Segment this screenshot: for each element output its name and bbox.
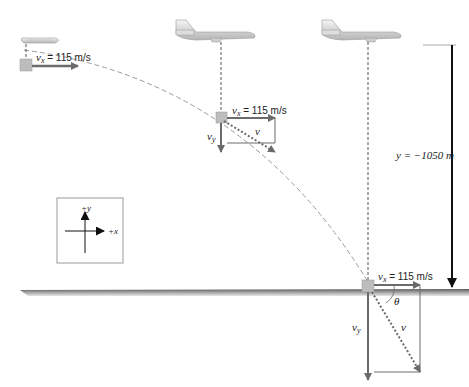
v-label: v <box>401 321 406 333</box>
airplane-icon <box>176 20 255 42</box>
v-vector <box>224 121 275 152</box>
package <box>20 59 32 71</box>
axes-inset: +y +x <box>57 198 123 263</box>
airplane-icon <box>21 38 58 43</box>
vy-label: vy <box>207 130 216 144</box>
ground <box>20 289 469 296</box>
package-impact: θ vx = 115 m/s vy v <box>352 270 433 380</box>
projectile-diagram: y = −1050 m vx = 115 m/s vx = 115 m/s vy… <box>0 0 469 387</box>
package-release: vx = 115 m/s <box>20 51 91 71</box>
vx-label: vx = 115 m/s <box>378 270 433 284</box>
x-axis-label: +x <box>108 226 118 236</box>
package <box>362 280 374 292</box>
y-axis-label: +y <box>81 203 91 213</box>
package-midflight: vx = 115 m/s vy v <box>207 104 287 152</box>
vx-label: vx = 115 m/s <box>36 51 91 65</box>
vx-label: vx = 115 m/s <box>232 104 287 118</box>
height-indicator: y = −1050 m <box>392 45 456 287</box>
theta-label: θ <box>394 295 400 307</box>
vy-label: vy <box>352 321 361 335</box>
height-label: y = −1050 m <box>395 149 454 161</box>
v-label: v <box>255 125 260 137</box>
airplane-icon <box>322 20 401 42</box>
